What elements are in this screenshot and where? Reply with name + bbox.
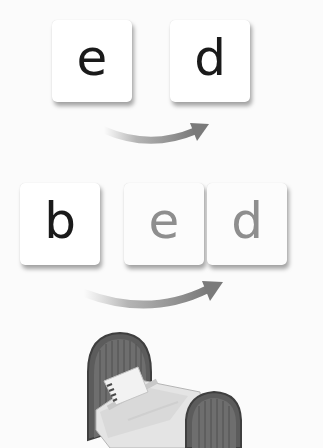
letter-tile-d: d (170, 20, 250, 102)
letter-tile-d-faded: d (207, 183, 287, 265)
tile-letter: e (77, 33, 108, 83)
letter-tile-b: b (20, 183, 100, 265)
letter-tile-e-faded: e (124, 183, 204, 265)
letter-tile-e: e (52, 20, 132, 102)
tile-letter: d (231, 196, 263, 246)
tile-letter: b (44, 196, 76, 246)
tile-letter: e (149, 196, 180, 246)
tile-letter: d (194, 33, 226, 83)
